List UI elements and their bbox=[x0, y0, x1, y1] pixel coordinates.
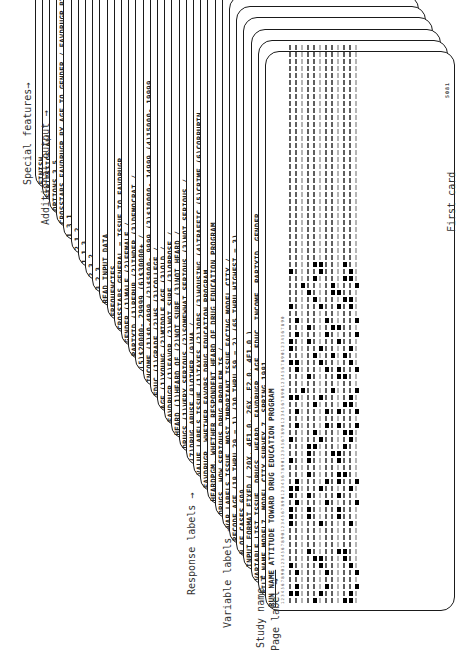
card-text: RUN NAME ATTITUDE TOWARD DRUG EDUCATION … bbox=[267, 388, 276, 607]
annotation-special-features: Special features→ bbox=[22, 83, 33, 185]
annotation-page-label: Page label → bbox=[270, 579, 281, 651]
card-content: ATTITUDE TOWARD DRUG EDUCATION PROGRAM bbox=[267, 388, 276, 569]
annotation-variable-labels: Variable labels → bbox=[222, 526, 233, 628]
first-card-label: First card bbox=[446, 172, 457, 232]
annotation-additional-output: Additional output → bbox=[40, 111, 51, 225]
first-card: RUN NAME ATTITUDE TOWARD DRUG EDUCATION … bbox=[265, 51, 455, 611]
card-footer-code: 5081 bbox=[444, 82, 450, 98]
punch-card-figure: FINISH STATISTICS ALLOPTIONS 3,5CROSSTAB… bbox=[0, 0, 457, 651]
column-number-strip: 1234567890123456789012345678901234567890… bbox=[280, 315, 285, 604]
annotation-response-labels: Response labels → bbox=[186, 493, 197, 595]
punch-hole-grid bbox=[288, 44, 360, 604]
annotation-study-name: Study name → bbox=[255, 576, 266, 648]
